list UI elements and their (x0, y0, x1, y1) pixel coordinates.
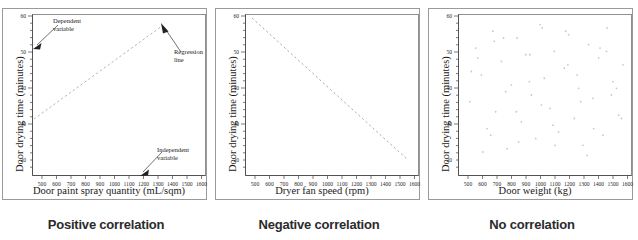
panel-caption-positive: Positive correlation (0, 217, 212, 232)
scatter-point (528, 81, 530, 83)
scatter-point (495, 111, 497, 113)
scatter-point (511, 84, 513, 86)
y-axis-title: Door drying time (minutes) (227, 56, 238, 172)
panel-negative-correlation: 60 50 40 30 20 (213, 0, 425, 240)
panel-caption-negative: Negative correlation (213, 217, 425, 232)
panel-no-correlation-plot: 60 50 40 30 20 (426, 0, 638, 240)
annotation-dependent-variable-line1: Dependent (53, 17, 81, 25)
svg-text:60: 60 (20, 13, 26, 19)
scatter-point (541, 27, 543, 29)
scatter-point (493, 40, 495, 42)
x-axis-title: Door paint spray quantity (mL/sqm) (6, 185, 212, 196)
svg-text:50: 50 (20, 49, 26, 55)
scatter-point (516, 37, 518, 39)
scatter-point (518, 141, 520, 143)
y-axis-title: Door drying time (minutes) (14, 56, 25, 172)
scatter-point (602, 134, 604, 136)
correlation-figure: 60 50 40 30 20 (0, 0, 638, 240)
scatter-point (490, 134, 492, 136)
scatter-point (622, 64, 624, 66)
scatter-point (470, 71, 472, 73)
scatter-point (565, 30, 567, 32)
scatter-point (592, 97, 594, 99)
scatter-point (477, 57, 479, 59)
panel-caption-no-correlation: No correlation (426, 217, 638, 232)
scatter-point (486, 128, 488, 130)
panel-negative-plot: 60 50 40 30 20 (213, 0, 425, 240)
scatter-point (469, 101, 471, 103)
svg-text:50: 50 (233, 49, 239, 55)
scatter-point (552, 124, 554, 126)
scatter-point (568, 34, 570, 36)
scatter-point (593, 128, 595, 130)
annotation-dependent-variable-line2: variable (53, 25, 81, 33)
scatter-point (539, 24, 541, 26)
scatter-point (541, 104, 543, 106)
scatter-point (616, 87, 618, 89)
scatter-point (618, 114, 620, 116)
scatter-point (554, 144, 556, 146)
annotation-independent-variable-line2: variable (157, 154, 189, 162)
scatter-point (598, 57, 600, 59)
scatter-point (612, 81, 614, 83)
scatter-point (553, 51, 555, 53)
scatter-point (543, 77, 545, 79)
x-axis-title: Door weight (kg) (432, 185, 638, 196)
svg-text:60: 60 (233, 13, 239, 19)
svg-text:50: 50 (446, 49, 452, 55)
annotation-independent-variable-line1: Independent (157, 146, 189, 154)
scatter-point (500, 61, 502, 63)
scatter-point (576, 74, 578, 76)
annotation-regression-line: Regression line (174, 48, 203, 64)
scatter-point (492, 30, 494, 32)
scatter-point (563, 67, 565, 69)
scatter-point (521, 121, 523, 123)
scatter-point (535, 138, 537, 140)
annotation-dependent-variable: Dependent variable (53, 17, 81, 33)
y-axis-title: Door drying time (minutes) (440, 56, 451, 172)
scatter-point (567, 64, 569, 66)
scatter-point (506, 148, 508, 150)
scatter-point (549, 108, 551, 110)
annotation-regression-line-line2: line (174, 56, 203, 64)
panel-no-correlation: 60 50 40 30 20 (426, 0, 638, 240)
scatter-point (525, 54, 527, 56)
scatter-point (531, 94, 533, 96)
scatter-point (529, 54, 531, 56)
scatter-point (503, 37, 505, 39)
svg-text:60: 60 (446, 13, 452, 19)
scatter-point (588, 44, 590, 46)
x-axis-title: Dryer fan speed (rpm) (219, 185, 425, 196)
scatter-point (475, 47, 477, 49)
scatter-point (558, 131, 560, 133)
scatter-point (606, 27, 608, 29)
scatter-point (586, 154, 588, 156)
panel-positive-plot: 60 50 40 30 20 (0, 0, 212, 240)
scatter-point (582, 144, 584, 146)
annotation-independent-variable: Independent variable (157, 146, 189, 162)
scatter-point (606, 51, 608, 53)
scatter-point (611, 94, 613, 96)
panel-positive-correlation: 60 50 40 30 20 (0, 0, 212, 240)
scatter-point (516, 111, 518, 113)
scatter-point (482, 151, 484, 153)
scatter-point (480, 74, 482, 76)
scatter-point (580, 101, 582, 103)
annotation-regression-line-line1: Regression (174, 48, 203, 56)
scatter-point (621, 118, 623, 120)
scatter-point (578, 87, 580, 89)
scatter-point (599, 47, 601, 49)
scatter-point (505, 91, 507, 93)
scatter-point (573, 118, 575, 120)
